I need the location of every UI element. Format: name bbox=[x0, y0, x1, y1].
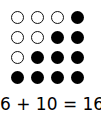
filled-circle-icon bbox=[67, 47, 87, 67]
empty-circle-icon bbox=[7, 47, 27, 67]
filled-circle-icon bbox=[47, 27, 67, 47]
empty-circle-icon bbox=[7, 27, 27, 47]
filled-circle-icon bbox=[67, 67, 87, 87]
filled-circle-icon bbox=[27, 47, 47, 67]
filled-circle-icon bbox=[67, 27, 87, 47]
filled-circle-icon bbox=[27, 67, 47, 87]
filled-circle-icon bbox=[47, 47, 67, 67]
filled-circle-icon bbox=[67, 7, 87, 27]
equation-label: 6 + 10 = 16 bbox=[0, 94, 96, 114]
empty-circle-icon bbox=[7, 7, 27, 27]
filled-circle-icon bbox=[7, 67, 27, 87]
empty-circle-icon bbox=[27, 27, 47, 47]
empty-circle-icon bbox=[47, 7, 67, 27]
dot-grid bbox=[7, 7, 87, 87]
filled-circle-icon bbox=[47, 67, 67, 87]
empty-circle-icon bbox=[27, 7, 47, 27]
